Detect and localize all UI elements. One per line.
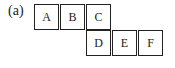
cell-a: A xyxy=(34,4,59,30)
cell-b: B xyxy=(60,4,85,30)
figure-label: (a) xyxy=(8,3,24,19)
cell-e: E xyxy=(112,30,137,56)
cell-c: C xyxy=(86,4,111,30)
cell-f: F xyxy=(138,30,163,56)
cell-d: D xyxy=(86,30,111,56)
